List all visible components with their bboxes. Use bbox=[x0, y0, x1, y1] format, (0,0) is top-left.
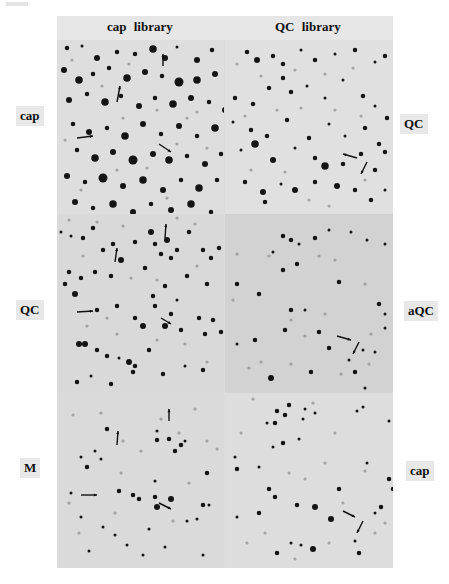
colony-dot bbox=[236, 516, 239, 519]
colony-dot bbox=[94, 55, 100, 61]
faint-colony bbox=[159, 417, 162, 420]
colony-dot bbox=[215, 178, 220, 183]
colony-dot bbox=[63, 282, 68, 287]
colony-dot bbox=[363, 126, 368, 131]
faint-colony bbox=[121, 224, 124, 227]
colony-dot bbox=[102, 526, 105, 529]
colony-dot bbox=[179, 178, 184, 183]
colony-dot bbox=[155, 438, 160, 443]
colony-dot bbox=[384, 313, 387, 316]
colony-dot bbox=[159, 132, 164, 137]
faint-colony bbox=[155, 338, 158, 341]
faint-colony bbox=[63, 138, 66, 141]
colony-dot bbox=[126, 359, 132, 365]
colony-dot bbox=[245, 50, 250, 55]
colony-dot bbox=[160, 187, 166, 193]
faint-colony bbox=[129, 276, 132, 279]
colony-dot bbox=[105, 126, 110, 131]
colony-dot bbox=[265, 134, 270, 139]
colony-dot bbox=[133, 364, 138, 369]
colony-dot bbox=[148, 528, 151, 531]
colony-dot bbox=[219, 152, 224, 157]
faint-colony bbox=[139, 449, 142, 452]
faint-colony bbox=[333, 258, 336, 261]
colony-dot bbox=[185, 154, 190, 159]
colony-dot bbox=[105, 427, 110, 432]
row-label-right-aqc: aQC bbox=[404, 301, 438, 321]
colony-dot bbox=[272, 446, 275, 449]
faint-colony bbox=[85, 324, 88, 327]
colony-dot bbox=[72, 291, 78, 297]
faint-colony bbox=[311, 401, 314, 404]
faint-colony bbox=[289, 318, 292, 321]
colony-dot bbox=[271, 54, 276, 59]
colony-dot bbox=[85, 92, 90, 97]
colony-dot bbox=[64, 173, 70, 179]
corner-mark bbox=[6, 2, 28, 6]
colony-dot bbox=[186, 520, 189, 523]
colony-dot bbox=[109, 382, 114, 387]
colony-dot bbox=[110, 149, 116, 155]
colony-dot bbox=[169, 256, 174, 261]
colony-dot bbox=[374, 61, 377, 64]
colony-dot bbox=[194, 57, 200, 63]
panel-cap-library-m-probe bbox=[57, 393, 224, 568]
faint-colony bbox=[175, 142, 178, 145]
faint-colony bbox=[243, 114, 246, 117]
faint-colony bbox=[327, 204, 330, 207]
colony-dot bbox=[302, 418, 305, 421]
faint-colony bbox=[71, 413, 74, 416]
blot-image bbox=[225, 393, 393, 568]
colony-dot bbox=[313, 58, 318, 63]
colony-dot bbox=[243, 180, 248, 185]
colony-dot bbox=[334, 53, 337, 56]
blot-image bbox=[225, 40, 393, 214]
faint-colony bbox=[99, 411, 102, 414]
colony-dot bbox=[109, 200, 117, 208]
colony-dot bbox=[202, 161, 208, 167]
colony-dot bbox=[334, 183, 340, 189]
colony-dot bbox=[93, 270, 98, 275]
colony-dot bbox=[175, 248, 180, 253]
colony-dot bbox=[81, 45, 84, 48]
colony-dot bbox=[60, 231, 63, 234]
colony-dot bbox=[167, 437, 172, 442]
colony-dot bbox=[373, 168, 378, 173]
colony-dot bbox=[67, 270, 72, 275]
faint-colony bbox=[239, 431, 242, 434]
colony-dot bbox=[366, 239, 369, 242]
colony-dot bbox=[251, 140, 259, 148]
colony-dot bbox=[193, 76, 201, 84]
colony-dot bbox=[235, 282, 240, 287]
faint-colony bbox=[323, 72, 326, 75]
colony-dot bbox=[383, 150, 388, 155]
colony-dot bbox=[344, 135, 347, 138]
colony-dot bbox=[205, 282, 210, 287]
colony-dot bbox=[61, 67, 67, 73]
faint-colony bbox=[333, 108, 336, 111]
faint-colony bbox=[327, 541, 330, 544]
faint-colony bbox=[369, 332, 372, 335]
colony-dot bbox=[159, 252, 164, 257]
colony-dot bbox=[201, 368, 206, 373]
faint-colony bbox=[351, 66, 354, 69]
colony-dot bbox=[70, 235, 73, 238]
colony-dot bbox=[123, 74, 131, 82]
colony-dot bbox=[162, 323, 168, 329]
colony-dot bbox=[249, 128, 254, 133]
colony-dot bbox=[149, 202, 154, 207]
colony-dot bbox=[313, 156, 318, 161]
colony-dot bbox=[153, 304, 158, 309]
colony-dot bbox=[267, 86, 272, 91]
faint-colony bbox=[195, 110, 198, 113]
faint-colony bbox=[259, 74, 262, 77]
colony-dot bbox=[217, 246, 222, 251]
colony-dot bbox=[327, 346, 332, 351]
colony-dot bbox=[66, 97, 72, 103]
colony-dot bbox=[169, 100, 177, 108]
faint-colony bbox=[81, 254, 84, 257]
colony-dot bbox=[168, 207, 174, 213]
colony-dot bbox=[258, 466, 261, 469]
faint-colony bbox=[249, 168, 252, 171]
colony-dot bbox=[353, 188, 358, 193]
